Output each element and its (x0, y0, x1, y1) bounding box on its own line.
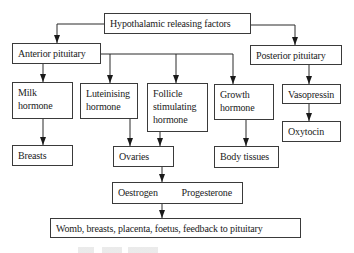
node-label: Oxytocin (288, 125, 336, 138)
node-label: Posterior pituitary (256, 49, 337, 62)
arrow-icon (127, 138, 133, 146)
arrow-icon (243, 138, 249, 146)
node-label: Hypothalamic releasing factors (110, 17, 246, 30)
node-target-tissues: Womb, breasts, placenta, foetus, feedbac… (50, 218, 301, 238)
node-label: Vasopressin (288, 88, 336, 101)
node-label-line2: stimulating (153, 100, 203, 113)
node-label-line2: hormone (220, 101, 269, 114)
node-label: Body tissues (220, 150, 274, 163)
node-breasts: Breasts (12, 145, 73, 166)
cropped-caption (78, 247, 158, 253)
arrow-icon (157, 138, 163, 146)
arrow-icon (40, 74, 46, 82)
node-posterior-pituitary: Posterior pituitary (250, 45, 342, 65)
node-label: Anterior pituitary (18, 47, 96, 60)
node-hypothalamic-releasing-factors: Hypothalamic releasing factors (104, 13, 251, 34)
node-label-line1: Milk (18, 86, 68, 99)
arrow-icon (159, 174, 165, 182)
node-milk-hormone: Milk hormone (12, 82, 73, 119)
node-anterior-pituitary: Anterior pituitary (12, 43, 101, 64)
node-body-tissues: Body tissues (214, 146, 279, 168)
arrow-icon (159, 210, 165, 218)
edge-hypothalamic-anterior (57, 24, 104, 43)
arrow-icon (230, 76, 236, 84)
node-label-line2: hormone (18, 99, 68, 112)
node-label-line1: Growth (220, 88, 269, 101)
node-label-oestrogen: Oestrogen (118, 186, 158, 199)
hormone-flowchart: Hypothalamic releasing factors Anterior … (0, 0, 354, 253)
arrow-icon (306, 113, 312, 121)
node-growth-hormone: Growth hormone (214, 84, 274, 120)
node-label-line1: Follicle (153, 87, 203, 100)
arrow-icon (40, 137, 46, 145)
arrow-icon (173, 75, 179, 83)
node-oxytocin: Oxytocin (282, 121, 341, 142)
node-oestrogen-progesterone: Oestrogen Progesterone (112, 182, 243, 204)
node-ovaries: Ovaries (113, 146, 174, 167)
node-label: Breasts (18, 149, 68, 162)
arrow-icon (107, 75, 113, 83)
node-label: Ovaries (119, 150, 169, 163)
node-label-line2: hormone (86, 100, 133, 113)
arrow-icon (54, 35, 60, 43)
arrow-icon (292, 37, 298, 45)
node-label: Womb, breasts, placenta, foetus, feedbac… (56, 222, 296, 235)
node-luteinising-hormone: Luteinising hormone (80, 83, 138, 119)
node-label-progesterone: Progesterone (182, 186, 232, 199)
edge-hypothalamic-posterior (250, 25, 295, 45)
node-follicle-stimulating-hormone: Follicle stimulating hormone (147, 83, 208, 132)
node-vasopressin: Vasopressin (282, 84, 341, 104)
node-label-line3: hormone (153, 113, 203, 126)
arrow-icon (306, 76, 312, 84)
node-label-line1: Luteinising (86, 87, 133, 100)
